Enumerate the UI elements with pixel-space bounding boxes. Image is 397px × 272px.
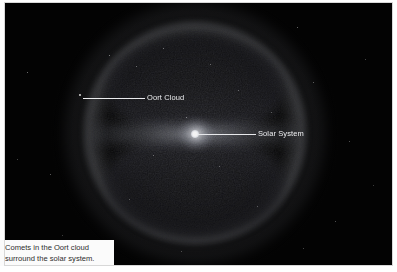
oort-cloud-figure: Oort Cloud Solar System Comets in the Oo… xyxy=(0,0,397,272)
leader-line-solar-system xyxy=(198,134,256,135)
star xyxy=(17,159,18,160)
star xyxy=(271,112,272,113)
star xyxy=(313,82,314,83)
star xyxy=(27,72,28,73)
star xyxy=(219,166,220,167)
star xyxy=(50,174,51,175)
callout-label-oort-cloud: Oort Cloud xyxy=(147,94,184,102)
star xyxy=(79,94,81,96)
star xyxy=(365,59,366,60)
sky-plate: Oort Cloud Solar System xyxy=(5,3,392,265)
star xyxy=(373,185,374,186)
star xyxy=(163,48,164,49)
star xyxy=(297,27,298,28)
star xyxy=(349,141,350,142)
caption-line-1: Comets in the Oort cloud xyxy=(5,243,109,254)
solar-system-marker-icon xyxy=(191,130,199,138)
star xyxy=(129,199,130,200)
oort-cloud-lobe-top xyxy=(106,36,284,132)
star xyxy=(257,206,258,207)
leader-line-oort-cloud xyxy=(83,98,145,99)
caption-line-2: surround the solar system. xyxy=(5,254,109,265)
star xyxy=(238,90,239,91)
star xyxy=(186,117,187,118)
oort-cloud-lobe-bottom xyxy=(106,137,284,237)
cloud-grain-texture xyxy=(5,3,392,265)
star xyxy=(109,55,110,56)
star xyxy=(62,235,63,236)
star xyxy=(153,155,154,156)
star xyxy=(303,248,304,249)
star xyxy=(136,66,137,67)
star xyxy=(210,64,211,65)
star xyxy=(335,221,336,222)
figure-caption: Comets in the Oort cloud surround the so… xyxy=(0,240,114,266)
star xyxy=(181,251,182,252)
solar-system-glow xyxy=(179,118,213,150)
callout-label-solar-system: Solar System xyxy=(258,130,304,138)
